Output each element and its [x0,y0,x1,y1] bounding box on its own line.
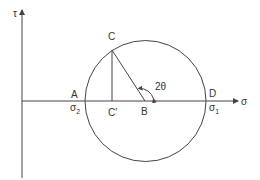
sigma1-label: σ1 [209,102,219,115]
angle-2theta-label: 2θ [155,81,167,92]
point-d-label: D [209,88,216,99]
mohr-circle-diagram: τ σ C A D B C′ σ2 σ1 2θ [0,0,260,180]
sigma-label: σ [241,96,248,107]
point-c-label: C [108,31,115,42]
line-c-b [112,50,145,101]
point-cprime-label: C′ [108,107,117,118]
sigma2-label: σ2 [70,102,80,115]
tau-label: τ [13,8,17,19]
point-b-label: B [141,106,148,117]
point-a-label: A [71,89,78,100]
